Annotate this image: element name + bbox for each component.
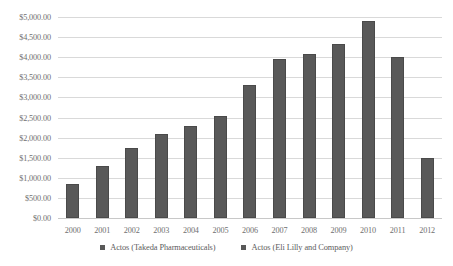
x-axis-tick: 2002 bbox=[117, 219, 147, 237]
x-axis-tick: 2010 bbox=[353, 219, 383, 237]
bar-2008 bbox=[303, 54, 316, 218]
bar-slot bbox=[58, 17, 88, 218]
y-axis-tick-label: $0.00 bbox=[33, 214, 51, 223]
y-axis-labels: $5,000.00$4,500.00$4,000.00$3,500.00$3,0… bbox=[0, 17, 56, 218]
bar-slot bbox=[206, 17, 236, 218]
bar-2012 bbox=[421, 158, 434, 218]
x-axis-tick: 2004 bbox=[176, 219, 206, 237]
chart-legend: Actos (Takeda Pharmaceuticals)Actos (Eli… bbox=[0, 243, 453, 252]
bar-slot bbox=[324, 17, 354, 218]
bar-2004 bbox=[184, 126, 197, 218]
legend-item-2[interactable]: Actos (Eli Lilly and Company) bbox=[241, 243, 352, 252]
x-axis-tick-label: 2009 bbox=[331, 226, 347, 235]
legend-label: Actos (Takeda Pharmaceuticals) bbox=[110, 243, 215, 252]
x-axis-tick: 2011 bbox=[383, 219, 413, 237]
y-axis-tick-label: $4,000.00 bbox=[19, 53, 51, 62]
bar-slot bbox=[147, 17, 177, 218]
x-axis-tick-label: 2001 bbox=[94, 226, 110, 235]
bar-2005 bbox=[214, 116, 227, 219]
bar-slot bbox=[383, 17, 413, 218]
x-axis-tick-label: 2010 bbox=[360, 226, 376, 235]
y-axis-tick-label: $3,000.00 bbox=[19, 93, 51, 102]
bar-2009 bbox=[332, 44, 345, 218]
x-axis-tick: 2008 bbox=[294, 219, 324, 237]
y-axis-tick-label: $3,500.00 bbox=[19, 73, 51, 82]
bar-2011 bbox=[391, 57, 404, 218]
bar-slot bbox=[117, 17, 147, 218]
bar-slot bbox=[235, 17, 265, 218]
x-axis-tick: 2003 bbox=[147, 219, 177, 237]
bar-2007 bbox=[273, 59, 286, 218]
x-axis-tick: 2007 bbox=[265, 219, 295, 237]
x-axis-tick-label: 2011 bbox=[390, 226, 406, 235]
y-axis-tick-label: $1,500.00 bbox=[19, 153, 51, 162]
legend-swatch-icon bbox=[241, 245, 246, 250]
bar-slot bbox=[412, 17, 442, 218]
y-axis-tick-label: $2,500.00 bbox=[19, 113, 51, 122]
x-axis-tick: 2001 bbox=[88, 219, 118, 237]
bar-2006 bbox=[243, 85, 256, 218]
plot-area bbox=[58, 17, 442, 218]
bar-2010 bbox=[362, 21, 375, 218]
x-axis-tick-label: 2003 bbox=[153, 226, 169, 235]
y-axis-tick-label: $4,500.00 bbox=[19, 33, 51, 42]
x-axis-tick: 2005 bbox=[206, 219, 236, 237]
bar-chart: $5,000.00$4,500.00$4,000.00$3,500.00$3,0… bbox=[0, 0, 453, 266]
y-axis-tick-label: $500.00 bbox=[25, 193, 51, 202]
bar-slot bbox=[294, 17, 324, 218]
legend-label: Actos (Eli Lilly and Company) bbox=[251, 243, 352, 252]
x-axis-tick-label: 2002 bbox=[124, 226, 140, 235]
bar-2002 bbox=[125, 148, 138, 218]
x-axis-tick-label: 2007 bbox=[271, 226, 287, 235]
x-axis-tick-label: 2012 bbox=[419, 226, 435, 235]
bar-slot bbox=[88, 17, 118, 218]
x-axis-tick: 2006 bbox=[235, 219, 265, 237]
y-axis-tick-label: $2,000.00 bbox=[19, 133, 51, 142]
legend-swatch-icon bbox=[100, 245, 105, 250]
x-axis-tick-label: 2008 bbox=[301, 226, 317, 235]
x-axis-tick: 2000 bbox=[58, 219, 88, 237]
x-axis-tick-label: 2004 bbox=[183, 226, 199, 235]
bar-2003 bbox=[155, 134, 168, 218]
y-axis-tick-label: $5,000.00 bbox=[19, 13, 51, 22]
bar-slot bbox=[353, 17, 383, 218]
x-axis-tick-label: 2005 bbox=[212, 226, 228, 235]
y-axis-tick-label: $1,000.00 bbox=[19, 173, 51, 182]
x-axis-tick: 2012 bbox=[412, 219, 442, 237]
bar-series-actos-takeda bbox=[58, 17, 442, 218]
x-axis-tick-label: 2000 bbox=[65, 226, 81, 235]
bar-2001 bbox=[96, 166, 109, 218]
bar-slot bbox=[265, 17, 295, 218]
x-axis-tick-label: 2006 bbox=[242, 226, 258, 235]
bar-slot bbox=[176, 17, 206, 218]
bar-2000 bbox=[66, 184, 79, 218]
x-axis-labels: 2000200120022003200420052006200720082009… bbox=[58, 219, 442, 237]
legend-item-1[interactable]: Actos (Takeda Pharmaceuticals) bbox=[100, 243, 215, 252]
x-axis-tick: 2009 bbox=[324, 219, 354, 237]
